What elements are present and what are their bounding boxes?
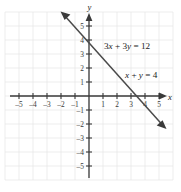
equation-simplified-constant: 4 xyxy=(153,70,158,80)
coordinate-plane-svg: –5 –4 –3 –2 –1 1 2 3 4 5 5 4 3 2 1 –1 –2… xyxy=(0,0,181,192)
x-tick-label: 2 xyxy=(115,100,119,109)
y-tick-label: –2 xyxy=(76,120,85,129)
x-tick-label: –5 xyxy=(14,100,23,109)
y-tick-label: 3 xyxy=(80,50,84,59)
y-tick-label: –3 xyxy=(76,134,85,143)
x-tick-label: –4 xyxy=(28,100,37,109)
y-tick-label: –1 xyxy=(76,106,85,115)
y-tick-label: –5 xyxy=(76,162,85,171)
x-tick-label: –3 xyxy=(42,100,51,109)
y-tick-label: 2 xyxy=(80,64,84,73)
y-axis-label: y xyxy=(87,2,92,12)
x-axis-label: x xyxy=(167,92,172,102)
x-tick-label: 5 xyxy=(157,100,161,109)
x-tick-label: –2 xyxy=(56,100,65,109)
x-tick-label: 1 xyxy=(101,100,105,109)
y-tick-label: 1 xyxy=(80,78,84,87)
x-tick-label: 3 xyxy=(129,100,133,109)
graph-figure: –5 –4 –3 –2 –1 1 2 3 4 5 5 4 3 2 1 –1 –2… xyxy=(0,0,181,192)
equation-primary-label: 3x + 3y = 12 xyxy=(104,41,151,51)
equation-primary-constant: 12 xyxy=(141,41,151,51)
y-tick-label: 5 xyxy=(80,22,84,31)
y-tick-label: –4 xyxy=(76,148,85,157)
equation-simplified-label: x + y = 4 xyxy=(124,70,158,80)
